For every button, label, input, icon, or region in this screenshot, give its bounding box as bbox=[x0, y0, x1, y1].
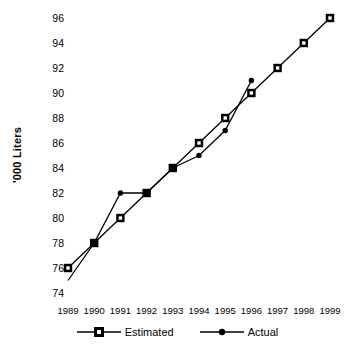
y-axis-tick-82: 82 bbox=[38, 188, 64, 199]
data-point-marker-center bbox=[145, 191, 148, 194]
data-point-marker bbox=[223, 128, 228, 133]
x-axis-tick-1997: 1997 bbox=[267, 306, 288, 316]
x-axis-tick-1992: 1992 bbox=[136, 306, 157, 316]
series-line-actual bbox=[68, 81, 251, 281]
data-point-marker bbox=[273, 64, 281, 72]
y-axis-tick-76: 76 bbox=[38, 263, 64, 274]
y-axis-tick-96: 96 bbox=[38, 13, 64, 24]
data-point-marker-center bbox=[119, 216, 122, 219]
legend-item-estimated[interactable]: Estimated bbox=[77, 326, 174, 338]
chart-container: '000 Liters 747678808284868890929496 198… bbox=[0, 0, 355, 355]
y-axis-label: '000 Liters bbox=[0, 0, 34, 310]
x-axis-tick-1990: 1990 bbox=[84, 306, 105, 316]
x-axis-tick-1991: 1991 bbox=[110, 306, 131, 316]
y-axis-label-text: '000 Liters bbox=[11, 127, 23, 183]
data-point-marker bbox=[221, 114, 229, 122]
y-axis-tick-labels: 747678808284868890929496 bbox=[34, 0, 64, 355]
y-axis-tick-78: 78 bbox=[38, 238, 64, 249]
y-axis-tick-80: 80 bbox=[38, 213, 64, 224]
data-point-marker-center bbox=[93, 241, 96, 244]
legend-marker-open-square-icon bbox=[77, 326, 121, 338]
y-axis-tick-92: 92 bbox=[38, 63, 64, 74]
data-point-marker bbox=[144, 190, 149, 195]
legend-label-estimated: Estimated bbox=[125, 327, 174, 338]
y-axis-tick-88: 88 bbox=[38, 113, 64, 124]
data-point-marker bbox=[92, 240, 97, 245]
legend-label-actual: Actual bbox=[248, 327, 279, 338]
series-actual bbox=[68, 78, 254, 281]
data-point-marker-center bbox=[302, 41, 305, 44]
data-point-marker-center bbox=[276, 66, 279, 69]
data-point-marker bbox=[196, 153, 201, 158]
data-point-marker bbox=[195, 139, 203, 147]
x-axis-tick-1994: 1994 bbox=[188, 306, 209, 316]
x-axis-tick-1996: 1996 bbox=[241, 306, 262, 316]
y-axis-tick-86: 86 bbox=[38, 138, 64, 149]
legend-marker-filled-circle-icon bbox=[200, 326, 244, 338]
data-point-marker-center bbox=[197, 141, 200, 144]
legend-item-actual[interactable]: Actual bbox=[200, 326, 279, 338]
data-point-marker bbox=[247, 89, 255, 97]
data-point-marker-center bbox=[250, 91, 253, 94]
data-point-marker bbox=[300, 39, 308, 47]
data-point-marker bbox=[90, 239, 98, 247]
y-axis-tick-84: 84 bbox=[38, 163, 64, 174]
data-point-marker bbox=[169, 164, 177, 172]
y-axis-tick-74: 74 bbox=[38, 288, 64, 299]
data-point-marker bbox=[249, 78, 254, 83]
y-axis-tick-90: 90 bbox=[38, 88, 64, 99]
x-axis-tick-1993: 1993 bbox=[162, 306, 183, 316]
data-point-marker-center bbox=[224, 116, 227, 119]
data-point-marker-center bbox=[171, 166, 174, 169]
data-point-marker bbox=[142, 189, 150, 197]
x-axis-tick-1999: 1999 bbox=[319, 306, 340, 316]
x-axis-tick-1998: 1998 bbox=[293, 306, 314, 316]
y-axis-tick-94: 94 bbox=[38, 38, 64, 49]
x-axis-tick-1989: 1989 bbox=[57, 306, 78, 316]
series-line-estimated bbox=[68, 18, 330, 268]
chart-legend: Estimated Actual bbox=[0, 326, 355, 338]
series-estimated bbox=[64, 14, 334, 272]
data-point-marker bbox=[118, 190, 123, 195]
data-point-marker-center bbox=[328, 16, 331, 19]
data-point-marker bbox=[64, 264, 72, 272]
data-point-marker bbox=[170, 165, 175, 170]
data-point-marker-center bbox=[66, 266, 69, 269]
data-point-marker bbox=[326, 14, 334, 22]
x-axis-tick-1995: 1995 bbox=[215, 306, 236, 316]
data-point-marker bbox=[116, 214, 124, 222]
